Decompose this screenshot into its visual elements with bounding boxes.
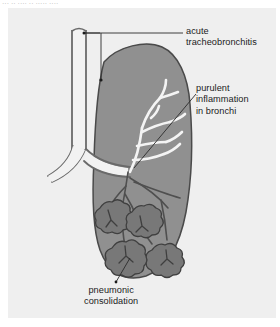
leader-dot-acute — [83, 32, 86, 35]
leader-dot-acute-lower — [99, 78, 102, 81]
label-acute-tracheobronchitis: acute tracheobronchitis — [186, 26, 257, 49]
lung-body — [93, 44, 192, 278]
leader-dot-pneumonic — [115, 281, 118, 284]
trachea — [72, 30, 86, 148]
lung-illustration — [0, 0, 280, 327]
figure-root: ··· ·· ···· ·· ····· ···· — [0, 0, 280, 327]
label-purulent-inflammation-in-bronchi: purulent inflammation in bronchi — [196, 83, 249, 117]
left-main-bronchus-lumen — [48, 146, 85, 182]
trachea-top-cap — [72, 29, 86, 32]
label-pneumonic-consolidation: pneumonic consolidation — [84, 285, 138, 308]
